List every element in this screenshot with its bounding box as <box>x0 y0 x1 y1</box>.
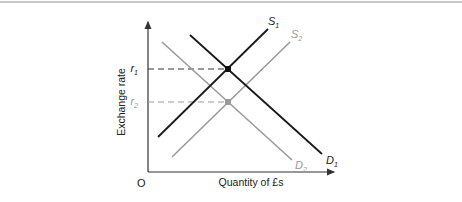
supply-curve-s1 <box>158 29 268 137</box>
origin-label: O <box>137 177 146 189</box>
r1-label: r1 <box>130 62 138 76</box>
equilibrium-point-r2 <box>225 99 231 105</box>
s2-label: S2 <box>291 28 302 42</box>
demand-curve-d1 <box>190 35 322 154</box>
d2-label: D2 <box>295 159 307 173</box>
equilibrium-point-r1 <box>225 66 231 72</box>
y-axis-label: Exchange rate <box>115 68 127 136</box>
r2-label: r2 <box>130 95 138 109</box>
exchange-rate-diagram: r1 r2 S1 S2 D1 D2 O Quantity of £s Excha… <box>0 0 462 202</box>
s1-label: S1 <box>268 15 279 29</box>
d1-label: D1 <box>326 154 338 168</box>
x-axis-label: Quantity of £s <box>219 176 284 188</box>
